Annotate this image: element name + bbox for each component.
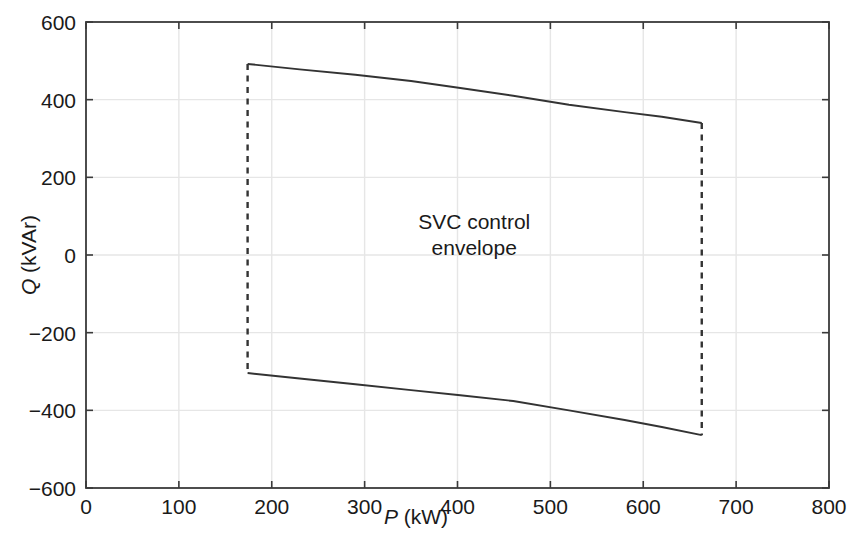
y-axis-unit-spacer [17,273,40,279]
x-axis-symbol: P [384,505,398,528]
x-tick-label: 100 [161,496,196,517]
x-tick-label: 300 [347,496,382,517]
x-tick-label: 800 [811,496,846,517]
x-axis-title: P (kW) [384,506,448,527]
x-tick-label: 0 [80,496,92,517]
y-tick-label: −600 [29,478,76,499]
y-axis-symbol: Q [17,279,40,295]
x-tick-label: 600 [626,496,661,517]
y-axis-unit: (kVAr) [17,215,40,273]
y-tick-label: −400 [29,400,76,421]
y-axis-title: Q (kVAr) [18,215,39,295]
x-tick-label: 500 [533,496,568,517]
series-lower-boundary [248,373,702,435]
x-tick-label: 200 [254,496,289,517]
envelope-annotation-label: SVC control envelope [418,209,530,263]
y-tick-label: 200 [41,167,76,188]
y-tick-label: −200 [29,322,76,343]
x-tick-label: 700 [719,496,754,517]
y-tick-label: 0 [64,245,76,266]
y-tick-label: 600 [41,12,76,33]
y-tick-label: 400 [41,89,76,110]
x-axis-unit: (kW) [404,505,448,528]
series-upper-boundary [248,64,702,123]
